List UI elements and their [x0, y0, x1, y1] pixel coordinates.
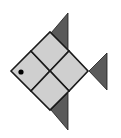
fish-diagram [0, 0, 121, 138]
fish-svg [0, 0, 121, 138]
eye-icon [18, 69, 23, 74]
